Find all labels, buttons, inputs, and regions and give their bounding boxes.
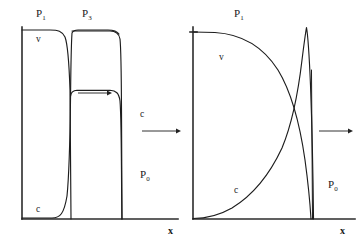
evolution-arrow (142, 129, 181, 134)
label-v-left: v (36, 34, 41, 44)
label-x-axis-right: x (340, 225, 345, 236)
right-panel: P1 P0 v c x (190, 7, 355, 236)
label-c-outer-left: c (140, 109, 144, 119)
label-c-right: c (234, 185, 238, 195)
left-panel-labels: P1 P3 P0 v c c x (36, 7, 173, 236)
left-panel: P1 P3 P0 v c c x (22, 7, 178, 236)
c-plateau-left (71, 90, 122, 219)
p3-top-boundary (72, 31, 122, 219)
c-curve-right (193, 28, 314, 220)
shock-motion-arrow (319, 129, 353, 134)
figure-container: P1 P3 P0 v c c x (0, 0, 363, 242)
v-curve-left (22, 30, 71, 219)
v-curve-right (193, 32, 311, 219)
diagram-canvas: P1 P3 P0 v c c x (0, 0, 363, 242)
shock-propagation-arrow (78, 91, 112, 96)
label-c-low-left: c (36, 204, 40, 214)
label-x-axis-left: x (168, 225, 173, 236)
label-p1-left: P1 (36, 7, 46, 22)
right-panel-labels: P1 P0 v c x (219, 7, 345, 236)
shock-front-right (312, 70, 313, 219)
label-v-right: v (219, 52, 224, 62)
label-p0-left: P0 (140, 168, 150, 183)
label-p1-right: P1 (234, 7, 244, 22)
label-p3-left: P3 (82, 7, 92, 22)
label-p0-right: P0 (328, 178, 338, 193)
